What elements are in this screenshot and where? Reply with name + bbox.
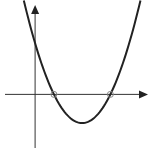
y-axis-arrowhead bbox=[31, 5, 39, 14]
parabola-curve bbox=[24, 0, 141, 123]
parabola-chart bbox=[0, 0, 152, 152]
x-axis-arrowhead bbox=[139, 90, 148, 98]
